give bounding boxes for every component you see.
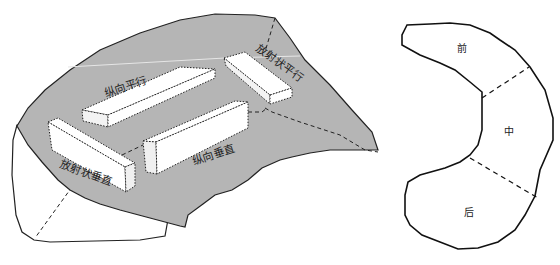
label-front: 前 (457, 42, 467, 54)
kidney-outline (402, 23, 553, 249)
diagram-canvas: 纵向平行 放射状平行 纵向垂直 放射状垂直 前 中 后 (0, 0, 560, 265)
label-back: 后 (464, 207, 474, 218)
label-middle: 中 (504, 125, 514, 137)
right-diagram: 前 中 后 (402, 23, 553, 249)
left-diagram: 纵向平行 放射状平行 纵向垂直 放射状垂直 (12, 14, 378, 242)
